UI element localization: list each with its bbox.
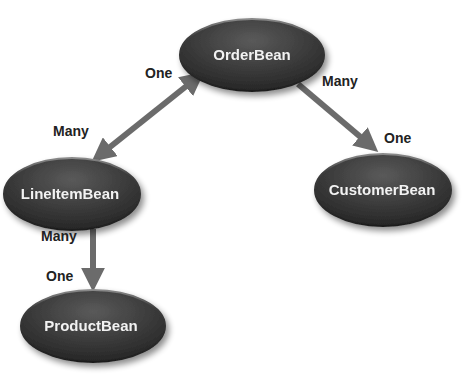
- node-lineitem-bean[interactable]: LineItemBean: [4, 158, 140, 230]
- node-label: LineItemBean: [21, 185, 119, 202]
- node-order-bean[interactable]: OrderBean: [180, 19, 324, 91]
- node-product-bean[interactable]: ProductBean: [21, 290, 165, 362]
- edge-order-customer: [298, 84, 370, 145]
- edge-label-one: One: [384, 130, 411, 146]
- node-label: ProductBean: [44, 317, 137, 334]
- arrow-order-to-customer: [298, 84, 370, 145]
- node-label: CustomerBean: [329, 181, 436, 198]
- node-customer-bean[interactable]: CustomerBean: [315, 154, 451, 226]
- edge-order-lineitem: [100, 80, 194, 155]
- edge-label-many: Many: [41, 228, 77, 244]
- node-label: OrderBean: [213, 46, 291, 63]
- edge-label-one: One: [46, 268, 73, 284]
- edge-label-many: Many: [53, 123, 89, 139]
- bidirectional-arrow: [100, 80, 194, 155]
- edge-label-many: Many: [322, 73, 358, 89]
- edge-label-one: One: [145, 65, 172, 81]
- relationship-diagram: OrderBean LineItemBean CustomerBean Prod…: [0, 0, 471, 377]
